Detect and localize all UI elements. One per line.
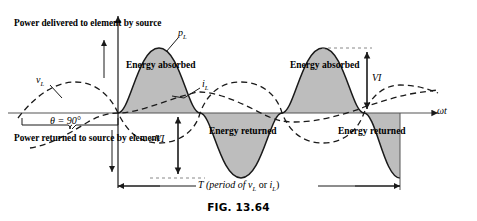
current-curve-label: iL: [202, 78, 208, 91]
x-axis-label: ωt: [437, 105, 447, 116]
voltage-curve-label: vL: [36, 74, 44, 87]
y-axis-bottom-label: Power returned to source by element: [14, 133, 106, 144]
vl-leader: [50, 85, 62, 98]
vi-label: VI: [372, 72, 381, 83]
energy-returned-1: Energy returned: [209, 126, 273, 137]
figure-container: Power delivered to element by source Pow…: [0, 0, 477, 221]
period-label: T (period of vL or iL): [198, 179, 279, 192]
energy-absorbed-2: Energy absorbed: [290, 60, 354, 71]
neg-vi-label: –VI: [150, 133, 164, 144]
energy-returned-2: Energy returned: [338, 126, 402, 137]
power-curve-label: pL: [178, 27, 187, 40]
phase-label: θ = 90°: [50, 115, 81, 126]
pl-leader: [166, 38, 178, 52]
energy-absorbed-1: Energy absorbed: [126, 60, 190, 71]
y-axis-top-label: Power delivered to element by source: [14, 18, 102, 29]
figure-caption: FIG. 13.64: [0, 202, 477, 214]
